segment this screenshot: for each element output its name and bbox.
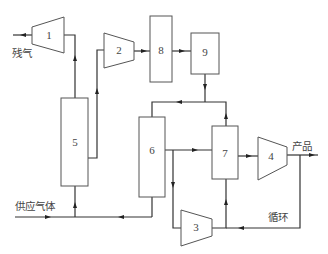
unit-label: 3 [193, 221, 199, 233]
arrow-right-icon [192, 148, 198, 152]
arrow-right-icon [45, 215, 51, 219]
arrow-right-icon [141, 49, 147, 53]
vessel-9: 9 [191, 33, 219, 74]
compressor-4: 4 [258, 137, 287, 180]
arrow-up-icon [224, 113, 228, 119]
vessel-8: 8 [150, 16, 172, 82]
unit-label: 9 [202, 46, 208, 58]
arrow-up-icon [95, 88, 99, 94]
arrow-right-icon [309, 153, 315, 157]
unit-label: 4 [268, 150, 274, 162]
compressor-1: 1 [32, 17, 64, 53]
product-label: 产品 [292, 140, 312, 152]
feed-gas-label: 供应气体 [15, 200, 56, 212]
arrow-up-icon [73, 55, 77, 61]
arrow-left-icon [118, 215, 124, 219]
unit-label: 1 [46, 29, 52, 41]
arrow-left-icon [176, 100, 182, 104]
line-3-to-7 [212, 179, 226, 228]
unit-label: 5 [72, 136, 78, 148]
unit-label: 2 [116, 44, 122, 56]
arrow-up-icon [73, 202, 77, 208]
arrow-left-icon [238, 226, 244, 230]
vessel-5: 5 [61, 98, 88, 186]
unit-label: 7 [222, 147, 228, 159]
line-5-to-2 [88, 50, 104, 158]
compressor-3: 3 [181, 210, 212, 246]
vessel-6: 6 [139, 117, 165, 197]
vessel-7: 7 [212, 126, 238, 179]
residual-gas-label: 残气 [12, 47, 33, 59]
recycle-label: 循环 [268, 211, 288, 223]
arrow-down-icon [203, 84, 207, 90]
compressor-2: 2 [104, 33, 134, 68]
arrow-up-icon [224, 199, 228, 205]
line-6-to-3 [173, 150, 181, 228]
arrow-right-icon [179, 49, 185, 53]
process-flow-diagram: 1 2 3 4 5 6 7 8 9 残气 供应气体 产品 循环 [0, 0, 328, 254]
line-5-to-1 [64, 35, 75, 98]
unit-label: 6 [149, 144, 155, 156]
arrow-left-icon [20, 33, 26, 37]
arrow-right-icon [246, 154, 252, 158]
unit-label: 8 [158, 44, 164, 56]
arrow-down-icon [171, 182, 175, 188]
